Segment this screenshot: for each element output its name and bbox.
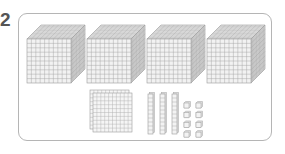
tens-rods: [148, 93, 179, 135]
base-ten-blocks-illustration: [0, 0, 285, 154]
thousand-cube: [207, 25, 265, 83]
hundred-flat: [93, 93, 132, 132]
one-unit: [184, 102, 191, 109]
ten-rod: [172, 93, 179, 135]
one-unit: [196, 102, 203, 109]
one-unit: [184, 131, 191, 138]
thousand-cube: [27, 25, 85, 83]
one-unit: [196, 121, 203, 128]
one-unit: [196, 131, 203, 138]
hundreds-flats: [90, 90, 132, 132]
one-unit: [184, 111, 191, 118]
thousand-cube: [147, 25, 205, 83]
thousands-cubes: [27, 25, 265, 83]
one-unit: [196, 111, 203, 118]
one-unit: [184, 121, 191, 128]
ones-units: [184, 102, 203, 138]
thousand-cube: [87, 25, 145, 83]
ten-rod: [160, 93, 167, 135]
ten-rod: [148, 93, 155, 135]
